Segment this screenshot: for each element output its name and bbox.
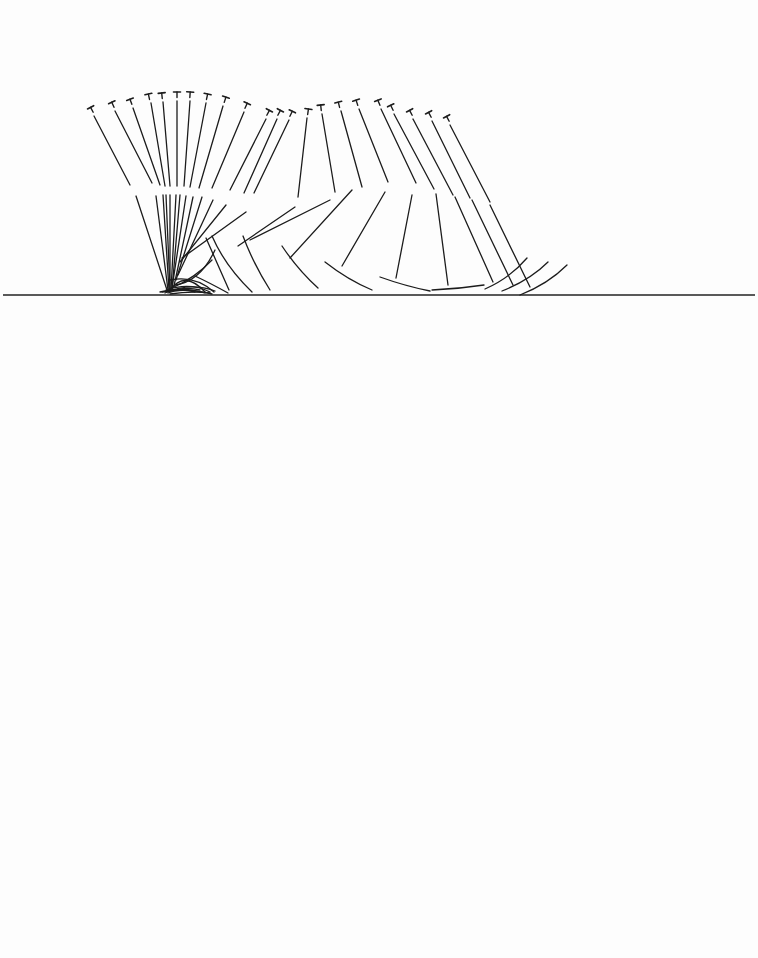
trunk-segment xyxy=(184,101,190,186)
trunk-segment xyxy=(94,116,130,185)
head-marker-icon xyxy=(317,105,325,111)
shank-segment xyxy=(206,238,229,290)
figure-sequence xyxy=(88,92,567,295)
head-marker-icon xyxy=(145,93,153,100)
head-marker-icon xyxy=(109,101,118,109)
stick-figure xyxy=(243,105,335,290)
head-marker-icon xyxy=(287,110,296,118)
stick-figure xyxy=(109,101,212,294)
head-marker-icon xyxy=(264,109,273,117)
head-marker-icon xyxy=(426,111,435,119)
head-marker-icon xyxy=(242,102,251,110)
head-marker-icon xyxy=(335,101,343,108)
trunk-segment xyxy=(151,103,165,186)
stick-figure xyxy=(170,92,205,292)
shank-segment xyxy=(380,277,430,291)
stick-figure-diagram xyxy=(0,0,758,958)
head-marker-icon xyxy=(353,99,361,106)
thigh-segment xyxy=(180,205,226,262)
stick-figure xyxy=(180,109,283,293)
trunk-segment xyxy=(359,109,388,182)
stick-figure xyxy=(407,109,527,289)
shank-segment xyxy=(170,292,210,294)
stick-figure xyxy=(212,109,312,292)
trunk-segment xyxy=(212,112,244,188)
head-marker-icon xyxy=(158,93,166,99)
thigh-segment xyxy=(238,207,295,246)
shank-segment xyxy=(243,236,270,290)
shank-segment xyxy=(432,285,484,290)
trunk-segment xyxy=(163,102,170,186)
trunk-segment xyxy=(450,125,490,202)
head-marker-icon xyxy=(127,98,135,106)
shank-segment xyxy=(282,246,318,288)
head-marker-icon xyxy=(275,109,284,117)
head-marker-icon xyxy=(304,109,312,115)
head-marker-icon xyxy=(88,106,97,114)
shank-segment xyxy=(325,262,372,290)
stick-figure xyxy=(172,93,212,288)
head-marker-icon xyxy=(174,92,181,98)
trunk-segment xyxy=(341,111,362,187)
head-marker-icon xyxy=(388,104,397,112)
trunk-segment xyxy=(413,119,453,195)
thigh-segment xyxy=(290,190,352,258)
thigh-segment xyxy=(455,197,493,282)
thigh-segment xyxy=(250,200,330,240)
head-marker-icon xyxy=(444,115,453,123)
thigh-segment xyxy=(396,195,412,278)
stick-figure xyxy=(282,101,362,288)
head-marker-icon xyxy=(221,96,229,103)
thigh-segment xyxy=(472,200,513,285)
head-marker-icon xyxy=(375,99,384,107)
stick-figure xyxy=(426,111,548,291)
head-marker-icon xyxy=(186,92,193,98)
stick-figure xyxy=(325,99,388,290)
trunk-segment xyxy=(322,114,335,192)
trunk-segment xyxy=(298,118,307,197)
shank-segment xyxy=(485,258,527,289)
head-marker-icon xyxy=(407,109,416,117)
thigh-segment xyxy=(342,192,385,266)
head-marker-icon xyxy=(203,93,211,100)
trunk-segment xyxy=(432,121,470,198)
thigh-segment xyxy=(436,194,448,285)
